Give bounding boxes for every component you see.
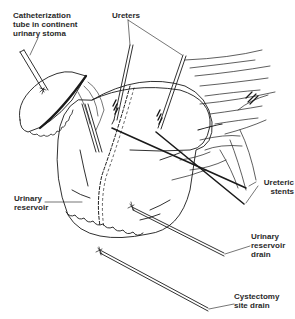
label-catheterization-tube: Catheterization tube in continent urinar… <box>13 11 83 38</box>
mesentery-tissue <box>172 50 275 190</box>
ureters <box>112 20 186 129</box>
surgical-diagram: Catheterization tube in continent urinar… <box>0 0 295 319</box>
stoma-catheter-limbs <box>82 104 102 152</box>
cystectomy-site-drain <box>96 247 234 311</box>
label-ureteric-stents: Ureteric stents <box>256 178 294 196</box>
ureteric-stents <box>112 128 258 204</box>
label-cystectomy-site-drain: Cystectomy site drain <box>234 292 279 310</box>
label-urinary-reservoir-drain: Urinary reservoir drain <box>251 232 285 259</box>
label-urinary-reservoir: Urinary reservoir <box>14 194 48 212</box>
urinary-reservoir-drain <box>128 202 250 256</box>
label-ureters: Ureters <box>112 11 140 20</box>
diagram-illustration <box>0 0 295 319</box>
